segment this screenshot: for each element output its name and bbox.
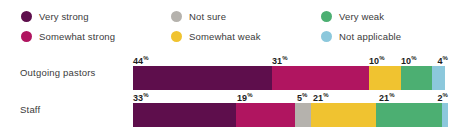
bar-row: Staff33%19%5%21%21%2% <box>0 90 468 128</box>
stacked-bar-track <box>133 66 448 90</box>
bar-segment-value-label: 19% <box>237 90 253 103</box>
legend-item-not-applicable[interactable]: Not applicable <box>321 28 401 44</box>
legend-column-2: Very weakNot applicable <box>321 8 401 48</box>
percent-sign: % <box>443 55 448 61</box>
legend-dot-icon <box>321 11 332 22</box>
percent-sign: % <box>143 55 148 61</box>
bar-value-number: 31 <box>272 56 282 66</box>
percent-sign: % <box>323 92 328 98</box>
bar-segment-value-label: 10% <box>369 53 385 66</box>
bar-segment-somewhat-strong[interactable] <box>236 103 295 127</box>
bar-segment-not-applicable[interactable] <box>432 66 445 90</box>
percent-sign: % <box>379 55 384 61</box>
bar-value-label-layer: 33%19%5%21%21%2% <box>133 90 448 103</box>
bar-segment-value-label: 2% <box>437 90 448 103</box>
stacked-bar-track <box>133 103 448 127</box>
bar-segment-value-label: 4% <box>437 53 448 66</box>
legend-dot-icon <box>21 31 32 42</box>
percent-sign: % <box>282 55 287 61</box>
bar-segment-somewhat-weak[interactable] <box>369 66 401 90</box>
percent-sign: % <box>247 92 252 98</box>
percent-sign: % <box>411 55 416 61</box>
bar-value-number: 33 <box>133 93 143 103</box>
legend-item-label: Somewhat strong <box>39 31 115 42</box>
percent-sign: % <box>143 92 148 98</box>
bar-segment-value-label: 31% <box>272 53 288 66</box>
chart-legend: Very strongSomewhat strongNot sureSomewh… <box>0 0 468 48</box>
bar-segment-value-label: 44% <box>133 53 149 66</box>
legend-column-1: Not sureSomewhat weak <box>171 8 261 48</box>
bar-segment-very-weak[interactable] <box>401 66 433 90</box>
bar-segment-somewhat-strong[interactable] <box>272 66 370 90</box>
legend-item-somewhat-strong[interactable]: Somewhat strong <box>21 28 115 44</box>
bar-segment-not-sure[interactable] <box>295 103 311 127</box>
bar-segment-very-strong[interactable] <box>133 66 272 90</box>
legend-item-very-strong[interactable]: Very strong <box>21 8 115 24</box>
legend-item-label: Somewhat weak <box>189 31 261 42</box>
bar-segment-value-label: 21% <box>313 90 329 103</box>
bar-row-category-label: Staff <box>20 104 128 115</box>
legend-dot-icon <box>171 11 182 22</box>
bar-segment-value-label: 10% <box>401 53 417 66</box>
bar-segment-not-applicable[interactable] <box>442 103 448 127</box>
legend-item-label: Very strong <box>39 11 89 22</box>
legend-item-very-weak[interactable]: Very weak <box>321 8 401 24</box>
bar-value-number: 44 <box>133 56 143 66</box>
percent-sign: % <box>389 92 394 98</box>
bar-value-number: 21 <box>313 93 323 103</box>
bar-value-number: 21 <box>379 93 389 103</box>
bar-row: Outgoing pastors44%31%10%10%4% <box>0 53 468 91</box>
percent-sign: % <box>443 92 448 98</box>
bar-value-number: 10 <box>369 56 379 66</box>
bar-row-category-label: Outgoing pastors <box>20 67 128 78</box>
legend-dot-icon <box>21 11 32 22</box>
legend-item-label: Not applicable <box>339 31 401 42</box>
bar-value-label-layer: 44%31%10%10%4% <box>133 53 448 66</box>
bar-segment-very-strong[interactable] <box>133 103 236 127</box>
bar-segment-somewhat-weak[interactable] <box>311 103 377 127</box>
bar-value-number: 10 <box>401 56 411 66</box>
bar-segment-value-label: 33% <box>133 90 149 103</box>
bar-segment-value-label: 5% <box>297 90 308 103</box>
bar-segment-value-label: 21% <box>379 90 395 103</box>
stacked-bar-chart: Outgoing pastors44%31%10%10%4%Staff33%19… <box>0 48 468 129</box>
legend-item-label: Not sure <box>189 11 226 22</box>
legend-item-not-sure[interactable]: Not sure <box>171 8 261 24</box>
percent-sign: % <box>302 92 307 98</box>
legend-column-0: Very strongSomewhat strong <box>21 8 115 48</box>
bar-value-number: 19 <box>237 93 247 103</box>
legend-item-label: Very weak <box>339 11 384 22</box>
bar-segment-very-weak[interactable] <box>376 103 442 127</box>
legend-dot-icon <box>321 31 332 42</box>
legend-dot-icon <box>171 31 182 42</box>
legend-item-somewhat-weak[interactable]: Somewhat weak <box>171 28 261 44</box>
